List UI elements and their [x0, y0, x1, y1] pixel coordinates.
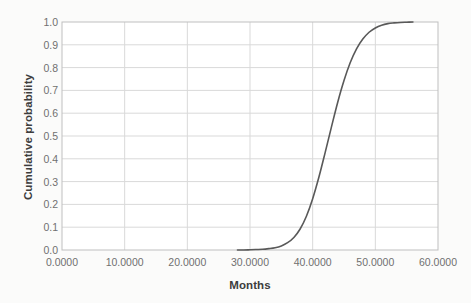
x-axis-title: Months	[62, 279, 438, 291]
x-axis-tick-labels: 0.000010.000020.000030.000040.000050.000…	[0, 0, 471, 303]
x-tick-label: 50.0000	[340, 256, 410, 268]
cumulative-probability-chart: 0.00.10.20.30.40.50.60.70.80.91.0 0.0000…	[0, 0, 471, 303]
x-tick-label: 40.0000	[278, 256, 348, 268]
x-tick-label: 30.0000	[215, 256, 285, 268]
x-tick-label: 20.0000	[152, 256, 222, 268]
x-tick-label: 60.0000	[403, 256, 471, 268]
x-tick-label: 10.0000	[90, 256, 160, 268]
y-axis-title: Cumulative probability	[22, 42, 34, 232]
x-tick-label: 0.0000	[27, 256, 97, 268]
